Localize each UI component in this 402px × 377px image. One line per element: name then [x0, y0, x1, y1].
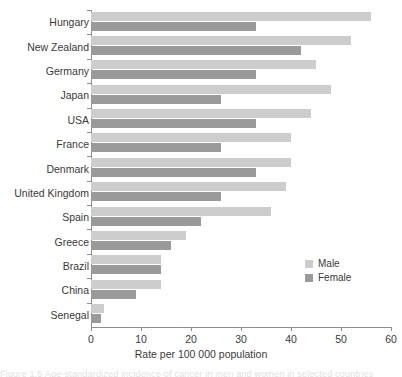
bar-male: [91, 133, 291, 142]
x-axis-tick: [141, 327, 142, 331]
bar-male: [91, 60, 316, 69]
x-axis-tick: [91, 327, 92, 331]
x-axis-tick-label: 50: [326, 333, 356, 345]
y-axis-tick: [87, 132, 91, 133]
bar-female: [91, 119, 256, 128]
bar-male: [91, 12, 371, 21]
bar-male: [91, 158, 291, 167]
category-label: Senegal: [50, 309, 89, 321]
legend-label-male: Male: [318, 259, 340, 269]
bar-group: [91, 10, 391, 34]
bar-group: [91, 205, 391, 229]
bar-female: [91, 168, 256, 177]
category-label: New Zealand: [27, 41, 89, 53]
y-axis-tick: [87, 278, 91, 279]
y-axis-tick: [87, 108, 91, 109]
bar-female: [91, 22, 256, 31]
x-axis-tick-label: 60: [376, 333, 402, 345]
bar-male: [91, 280, 161, 289]
bar-female: [91, 70, 256, 79]
bar-male: [91, 36, 351, 45]
legend-label-female: Female: [318, 273, 351, 283]
bar-group: [91, 59, 391, 83]
x-axis-tick: [341, 327, 342, 331]
bar-group: [91, 34, 391, 58]
bar-group: [91, 108, 391, 132]
figure-caption-text: Figure 1.5 Age-standardized incidence of…: [0, 369, 402, 377]
bar-female: [91, 290, 136, 299]
bar-group: [91, 83, 391, 107]
y-axis-tick: [87, 303, 91, 304]
y-axis-tick: [87, 181, 91, 182]
bar-female: [91, 217, 201, 226]
y-axis-tick: [87, 83, 91, 84]
bar-male: [91, 304, 104, 313]
bar-female: [91, 143, 221, 152]
category-label: Greece: [55, 236, 89, 248]
y-axis-tick: [87, 229, 91, 230]
y-axis-tick: [87, 156, 91, 157]
x-axis-tick: [241, 327, 242, 331]
bar-female: [91, 314, 101, 323]
bar-male: [91, 182, 286, 191]
legend-swatch-male: [305, 260, 313, 268]
category-label: France: [56, 138, 89, 150]
bar-female: [91, 192, 221, 201]
y-axis-tick: [87, 59, 91, 60]
category-label: Germany: [46, 65, 89, 77]
bar-male: [91, 207, 271, 216]
category-label: USA: [67, 114, 89, 126]
legend-swatch-female: [305, 274, 313, 282]
bar-male: [91, 109, 311, 118]
bar-female: [91, 46, 301, 55]
bar-group: [91, 156, 391, 180]
bar-group: [91, 229, 391, 253]
legend-item-male: Male: [305, 259, 351, 269]
bar-group: [91, 181, 391, 205]
y-axis-tick: [87, 10, 91, 11]
bar-female: [91, 265, 161, 274]
bar-male: [91, 85, 331, 94]
x-axis-title: Rate per 100 000 population: [0, 348, 402, 360]
x-axis-tick: [291, 327, 292, 331]
bar-male: [91, 231, 186, 240]
bar-female: [91, 241, 171, 250]
category-label: Denmark: [46, 163, 89, 175]
bar-group: [91, 132, 391, 156]
category-label: Spain: [62, 211, 89, 223]
x-axis-tick-label: 10: [126, 333, 156, 345]
x-axis-tick-label: 30: [226, 333, 256, 345]
bar-group: [91, 303, 391, 327]
bar-female: [91, 95, 221, 104]
category-label: Hungary: [49, 16, 89, 28]
x-axis-tick-label: 20: [176, 333, 206, 345]
category-label: United Kingdom: [14, 187, 89, 199]
category-label: China: [62, 284, 89, 296]
x-axis-tick: [391, 327, 392, 331]
y-axis-tick: [87, 254, 91, 255]
category-label: Japan: [60, 89, 89, 101]
bar-chart: HungaryNew ZealandGermanyJapanUSAFranceD…: [0, 0, 402, 377]
x-axis-tick-label: 0: [76, 333, 106, 345]
x-axis-tick: [191, 327, 192, 331]
bar-male: [91, 255, 161, 264]
legend: Male Female: [305, 259, 351, 287]
y-axis-tick: [87, 205, 91, 206]
y-axis-tick: [87, 34, 91, 35]
x-axis-tick-label: 40: [276, 333, 306, 345]
category-label: Brazil: [63, 260, 89, 272]
figure-caption-cutoff: Figure 1.5 Age-standardized incidence of…: [0, 369, 402, 377]
legend-item-female: Female: [305, 273, 351, 283]
